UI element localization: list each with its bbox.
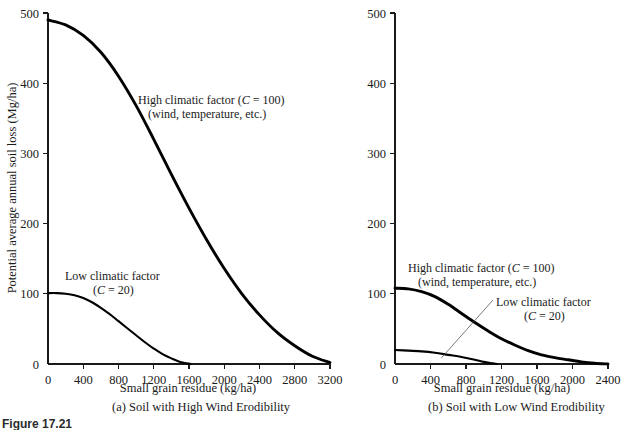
chart-panel-b: 0100200300400500 04008001200160020002400… <box>360 0 628 400</box>
x-tick-marks-b <box>431 364 609 369</box>
x-tick-marks-a <box>83 364 330 369</box>
y-tick-label: 0 <box>33 358 39 372</box>
annotation-low-a-line1: Low climatic factor <box>65 269 160 283</box>
x-axis-title-a: Small grain residue (kg/ha) <box>120 381 256 395</box>
curve-high-climatic-factor-a <box>48 20 330 363</box>
annotation-low-a-line2: (C = 20) <box>93 283 134 297</box>
annotation-low-b-line1: Low climatic factor <box>496 295 591 309</box>
y-tick-labels-a: 0100200300400500 <box>20 7 39 372</box>
annotation-high-b-line1: High climatic factor (C = 100) <box>408 261 554 275</box>
x-tick-label: 3200 <box>318 373 343 387</box>
y-tick-label: 300 <box>367 147 386 161</box>
panel-b-caption: (b) Soil with Low Wind Erodibility <box>428 400 605 415</box>
chart-panel-a: 0100200300400500 04008001200160020002400… <box>0 0 360 400</box>
y-tick-label: 500 <box>20 7 39 21</box>
y-tick-label: 500 <box>367 7 386 21</box>
figure-number: Figure 17.21 <box>2 417 72 430</box>
annotation-high-a-line1: High climatic factor (C = 100) <box>138 93 284 107</box>
y-tick-label: 200 <box>20 217 39 231</box>
panel-b-axes: 0100200300400500 04008001200160020002400 <box>367 7 620 388</box>
y-axis-title-a: Potential average annual soil loss (Mg/h… <box>5 83 19 294</box>
annotation-high-a-line2: (wind, temperature, etc.) <box>148 107 266 121</box>
x-tick-label: 0 <box>392 373 398 387</box>
x-tick-label: 0 <box>45 373 51 387</box>
panel-a-caption: (a) Soil with High Wind Erodibility <box>112 400 290 415</box>
y-tick-label: 200 <box>367 217 386 231</box>
panel-a-curves <box>48 20 330 364</box>
y-tick-marks-a <box>43 13 48 294</box>
y-tick-marks-b <box>390 13 395 294</box>
y-tick-label: 100 <box>367 287 386 301</box>
x-tick-label: 2800 <box>282 373 307 387</box>
x-tick-label: 400 <box>74 373 93 387</box>
panel-a-annotations: High climatic factor (C = 100) (wind, te… <box>65 93 284 297</box>
curve-low-climatic-factor-b <box>395 350 497 364</box>
annotation-low-b-line2: (C = 20) <box>524 309 565 323</box>
x-axis-title-b: Small grain residue (kg/ha) <box>434 381 570 395</box>
x-tick-label: 2400 <box>596 373 621 387</box>
y-tick-label: 400 <box>20 77 39 91</box>
y-tick-label: 300 <box>20 147 39 161</box>
y-tick-labels-b: 0100200300400500 <box>367 7 386 372</box>
panel-b-annotations: High climatic factor (C = 100) (wind, te… <box>408 261 591 323</box>
y-tick-label: 100 <box>20 287 39 301</box>
curve-low-climatic-factor-a <box>48 293 191 364</box>
annotation-high-b-line2: (wind, temperature, etc.) <box>418 275 536 289</box>
y-tick-label: 400 <box>367 77 386 91</box>
y-tick-label: 0 <box>380 358 386 372</box>
